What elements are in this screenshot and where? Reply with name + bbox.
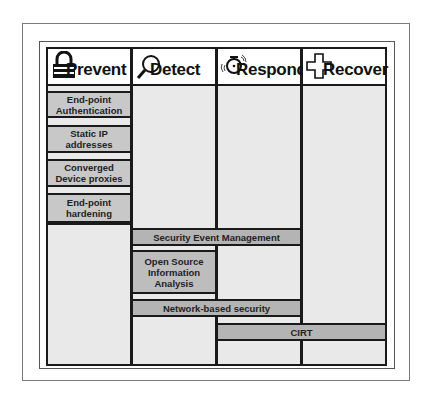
bar-network-based-security: Network-based security (133, 299, 300, 317)
item-line: Device proxies (55, 173, 122, 184)
bar-label: Network-based security (163, 303, 270, 314)
prevent-item-endpoint-hardening: End-pointhardening (48, 193, 130, 223)
column-title-respond: Respond (236, 60, 307, 80)
item-line: Analysis (154, 278, 193, 289)
prevent-item-static-ip: Static IPaddresses (48, 125, 130, 153)
item-line: Open Source (144, 256, 203, 267)
bar-cirt: CIRT (218, 323, 385, 341)
item-line: Authentication (56, 105, 123, 116)
item-line: addresses (65, 139, 112, 150)
item-line: Static IP (70, 128, 108, 139)
prevent-divider (48, 223, 130, 225)
detect-item-open-source-info-analysis: Open SourceInformationAnalysis (133, 250, 215, 294)
column-header-prevent: Prevent (48, 49, 130, 86)
bar-security-event-management: Security Event Management (133, 228, 300, 246)
item-line: Converged (64, 162, 114, 173)
item-line: End-point (67, 197, 111, 208)
column-header-detect: Detect (133, 49, 215, 86)
bar-label: Security Event Management (153, 232, 280, 243)
item-line: hardening (66, 208, 112, 219)
column-recover: Recover (303, 49, 385, 364)
column-header-recover: Recover (303, 49, 385, 86)
column-title-recover: Recover (323, 60, 388, 80)
column-header-respond: Respond (218, 49, 300, 86)
bar-label: CIRT (290, 327, 312, 338)
column-title-prevent: Prevent (66, 60, 126, 80)
security-lifecycle-diagram: Prevent Detect Respond (46, 47, 387, 366)
column-title-detect: Detect (150, 60, 200, 80)
item-line: Information (148, 267, 200, 278)
prevent-item-endpoint-authentication: End-pointAuthentication (48, 91, 130, 118)
prevent-item-converged-proxies: ConvergedDevice proxies (48, 159, 130, 187)
item-line: End-point (67, 94, 111, 105)
